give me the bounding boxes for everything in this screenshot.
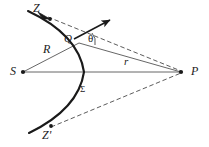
dashed-ray-z-to-p xyxy=(48,17,181,71)
physics-diagram: Z Q θ R r S P Σ Z' xyxy=(0,0,209,147)
label-z-bottom: Z' xyxy=(42,129,51,141)
label-point-p: P xyxy=(191,65,198,77)
diagram-canvas xyxy=(0,0,209,147)
label-source-s: S xyxy=(10,65,16,77)
label-point-q: Q xyxy=(64,33,72,44)
radius-line-R xyxy=(23,43,79,72)
label-surface-sigma: Σ xyxy=(80,85,85,94)
dashed-ray-zprime-to-p xyxy=(51,73,181,127)
label-angle-theta: θ xyxy=(88,33,93,44)
node-dot-s xyxy=(21,70,25,74)
node-dot-z xyxy=(48,17,52,21)
label-radius-R: R xyxy=(43,43,50,55)
node-dot-p xyxy=(179,70,183,74)
label-radius-r: r xyxy=(124,56,128,67)
label-z-top: Z xyxy=(33,2,40,14)
radius-line-r xyxy=(79,43,181,72)
